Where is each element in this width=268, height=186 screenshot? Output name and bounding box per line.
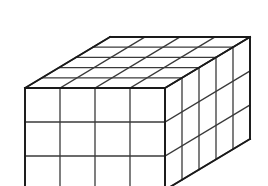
diagram-canvas — [0, 0, 268, 186]
rectangular-prism-figure — [0, 0, 268, 186]
